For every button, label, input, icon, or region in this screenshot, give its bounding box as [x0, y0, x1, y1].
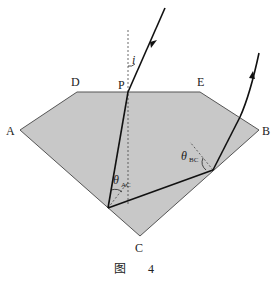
label-angle-i: i: [132, 53, 135, 67]
label-theta-ac: θ: [113, 173, 119, 187]
figure-caption-number: 4: [148, 262, 154, 276]
label-a: A: [6, 124, 15, 138]
figure-caption-char: 图: [114, 262, 126, 276]
prism-diagram: D P E A B C i θ AC θ BC 图 4: [0, 0, 276, 281]
label-b: B: [262, 124, 270, 138]
label-theta-bc-sub: BC: [189, 156, 199, 164]
label-e: E: [197, 75, 204, 89]
label-c: C: [135, 241, 143, 255]
prism-shape: [20, 92, 259, 236]
label-d: D: [71, 75, 80, 89]
incident-ray: [128, 8, 165, 92]
exit-ray: [240, 53, 259, 117]
label-theta-bc: θ: [181, 149, 187, 163]
label-p: P: [118, 78, 125, 92]
label-theta-ac-sub: AC: [121, 181, 131, 189]
